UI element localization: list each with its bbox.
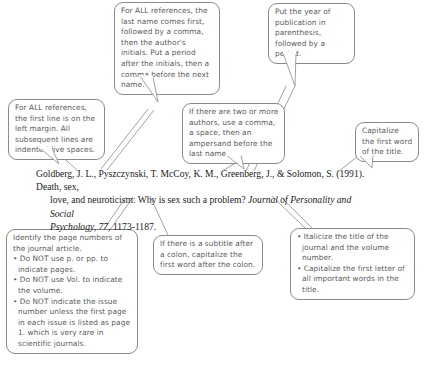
callout-authors-text: If there are two or more authors, use a …	[189, 107, 279, 160]
citation-journal-volume: Psychology, 77,	[50, 221, 110, 232]
citation-line-2: love, and neuroticism: Why is sex such a…	[36, 193, 376, 219]
callout-first-line-tail	[40, 148, 66, 174]
callout-italicize-bullet-2: • Capitalize the first letter of all imp…	[297, 264, 409, 296]
callout-subtitle: If there is a subtitle after a colon, ca…	[153, 235, 263, 275]
citation-line-1: Goldberg, J. L., Pyszczynski, T. McCoy, …	[36, 167, 376, 193]
citation-title-text: love, and neuroticism: Why is sex such a…	[50, 194, 248, 205]
citation-line-3: Psychology, 77, 1173-1187.	[36, 220, 376, 233]
callout-capitalize-title-tail	[358, 155, 384, 177]
reference-citation: Goldberg, J. L., Pyszczynski, T. McCoy, …	[36, 167, 376, 233]
callout-last-name: For ALL references, the last name comes …	[114, 2, 220, 95]
callout-pages-bullet-3: • Do NOT indicate the issue number unles…	[13, 297, 132, 350]
callout-last-name-tail	[136, 76, 166, 110]
leader-last-name-b	[107, 110, 154, 170]
callout-last-name-text: For ALL references, the last name comes …	[121, 6, 214, 91]
citation-page-range: 1173-1187.	[110, 221, 156, 232]
callout-authors-tail	[224, 155, 252, 177]
callout-pages-bullet-2: • Do NOT use Vol. to indicate the volume…	[13, 275, 132, 296]
callout-subtitle-text: If there is a subtitle after a colon, ca…	[160, 239, 257, 271]
leader-last-name-a	[101, 109, 148, 169]
callout-italicize: • Italicize the title of the journal and…	[290, 228, 415, 300]
callout-pages-intro: Identify the page numbers of the journal…	[13, 233, 132, 254]
callout-capitalize-title-text: Capitalize the first word of the title.	[362, 126, 413, 158]
callout-pages-bullet-1: • Do NOT use p. or pp. to indicate pages…	[13, 254, 132, 275]
callout-pages: Identify the page numbers of the journal…	[6, 229, 138, 354]
callout-italicize-bullet-1: • Italicize the title of the journal and…	[297, 232, 409, 264]
callout-year-tail	[280, 53, 306, 89]
diagram-canvas: For ALL references, the last name comes …	[0, 0, 428, 371]
